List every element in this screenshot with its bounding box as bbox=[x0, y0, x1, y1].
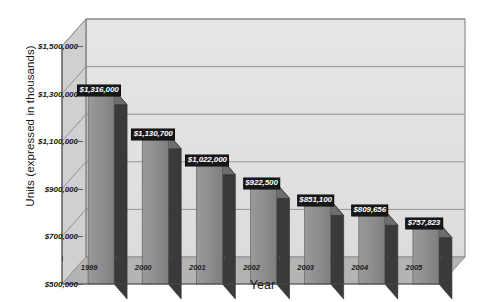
x-axis-tick-mark bbox=[224, 256, 225, 261]
bar-front-face bbox=[88, 90, 114, 284]
bar-value-label: $1,022,000 bbox=[186, 155, 229, 166]
bar-chart: $500,000$700,000$900,000$1,100,000$1,300… bbox=[0, 0, 479, 302]
x-axis-tick-label: 2003 bbox=[297, 263, 314, 272]
y-axis-tick-mark bbox=[76, 141, 83, 142]
y-axis-tick-label: $1,500,000 bbox=[4, 42, 78, 51]
bar-value-label: $922,500 bbox=[243, 178, 280, 189]
x-axis-tick-label: 2000 bbox=[135, 263, 152, 272]
bar-side-face bbox=[168, 134, 181, 299]
bar-value-label: $1,130,700 bbox=[132, 129, 175, 140]
bar-value-label: $851,100 bbox=[297, 195, 334, 206]
x-axis-tick-mark bbox=[441, 256, 442, 261]
x-axis-tick-mark bbox=[116, 256, 117, 261]
y-axis-tick-mark bbox=[76, 236, 83, 237]
x-axis-tick-mark bbox=[62, 256, 63, 261]
bar-front-face bbox=[142, 134, 168, 284]
bar-value-label: $757,823 bbox=[406, 218, 443, 229]
x-axis-tick-mark bbox=[387, 256, 388, 261]
y-axis-tick-mark bbox=[76, 46, 83, 47]
x-axis-title: Year bbox=[0, 278, 479, 292]
bar-value-label: $1,316,000 bbox=[78, 85, 121, 96]
y-axis-tick-labels: $500,000$700,000$900,000$1,100,000$1,300… bbox=[0, 0, 78, 302]
x-axis-tick-label: 1999 bbox=[81, 263, 98, 272]
bar-value-label: $809,656 bbox=[351, 205, 388, 216]
x-axis-tick-label: 2004 bbox=[351, 263, 368, 272]
y-axis-tick-label: $700,000 bbox=[4, 232, 78, 241]
y-axis-title: Units (expressed in thousands) bbox=[24, 16, 36, 236]
y-axis-tick-label: $1,300,000 bbox=[4, 89, 78, 98]
bar-side-face bbox=[114, 90, 127, 299]
y-axis-tick-label: $1,100,000 bbox=[4, 137, 78, 146]
y-axis-tick-mark bbox=[76, 189, 83, 190]
bar-front-face bbox=[413, 223, 439, 284]
x-axis-tick-label: 2005 bbox=[406, 263, 423, 272]
x-axis-tick-label: 2001 bbox=[189, 263, 206, 272]
bar-front-face bbox=[359, 210, 385, 284]
x-axis-tick-mark bbox=[333, 256, 334, 261]
x-axis-tick-mark bbox=[279, 256, 280, 261]
x-axis-tick-label: 2002 bbox=[243, 263, 260, 272]
y-axis-tick-label: $900,000 bbox=[4, 184, 78, 193]
x-axis-tick-mark bbox=[170, 256, 171, 261]
